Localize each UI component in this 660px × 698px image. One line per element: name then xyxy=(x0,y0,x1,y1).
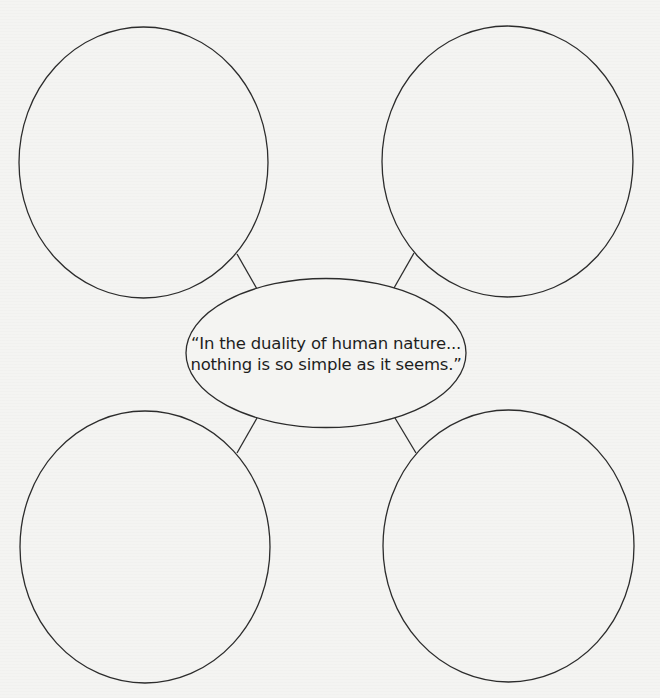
answer-circle-bottom-left[interactable] xyxy=(20,411,270,683)
center-quote: “In the duality of human nature... nothi… xyxy=(186,279,466,428)
quote-line-1: “In the duality of human nature... xyxy=(191,333,461,354)
answer-circle-top-right[interactable] xyxy=(382,26,633,297)
quote-line-2: nothing is so simple as it seems.” xyxy=(190,354,461,375)
answer-circle-bottom-right[interactable] xyxy=(383,410,634,682)
answer-circle-top-left[interactable] xyxy=(19,27,268,298)
